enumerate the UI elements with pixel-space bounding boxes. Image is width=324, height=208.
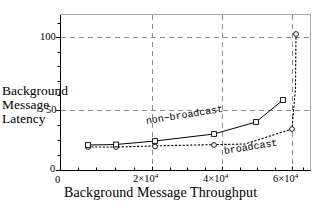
x-axis-title: Background Message Throughput [64, 186, 257, 200]
x-tick-label-60000-mantissa: 6×10 [273, 173, 295, 184]
series-broadcast [86, 32, 299, 150]
x-tick-label-0: 0 [55, 174, 60, 185]
x-tick-label-40000: 4×104 [203, 173, 228, 184]
x-tick-label-40000-exponent: 4 [225, 172, 229, 180]
x-tick-label-60000: 6×104 [273, 173, 298, 184]
y-tick-label-0: 0 [50, 163, 55, 174]
y-axis-title-line-1: Background [2, 84, 68, 98]
x-tick-label-40000-mantissa: 4×10 [203, 173, 225, 184]
chart-figure: Background Message Latency Background Me… [0, 0, 324, 208]
y-tick-label-50: 50 [46, 104, 57, 115]
y-axis-title-line-3: Latency [2, 112, 68, 126]
y-axis-title-line-2: Message [2, 98, 68, 112]
x-tick-label-60000-exponent: 4 [295, 172, 299, 180]
y-tick-label-100: 100 [40, 31, 56, 42]
y-axis-title: Background Message Latency [2, 84, 68, 125]
x-tick-label-20000-exponent: 4 [155, 172, 159, 180]
x-axis-ticks [61, 167, 304, 171]
x-tick-label-20000-mantissa: 2×10 [133, 173, 155, 184]
x-tick-label-20000: 2×104 [133, 173, 158, 184]
